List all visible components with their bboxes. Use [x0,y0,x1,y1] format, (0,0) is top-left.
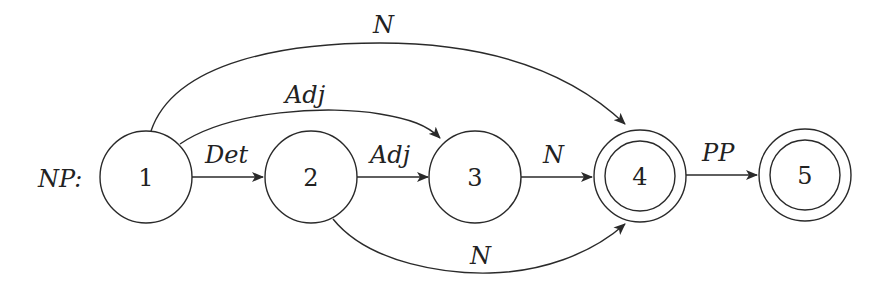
edge-label-det: Det [204,141,248,169]
state-3: 3 [429,131,521,223]
state-1-label: 1 [138,164,153,192]
edge-2-3: Adj [357,141,428,177]
edge-label-adj: Adj [368,141,411,169]
state-5-label: 5 [797,162,812,190]
edge-label-n-top: N [372,11,395,39]
state-1: 1 [100,131,192,223]
edge-label-n-bottom: N [469,242,492,270]
state-2: 2 [265,131,357,223]
state-3-label: 3 [467,164,482,192]
edge-2-4: N [333,219,625,273]
automaton-title-label: NP: [37,165,82,193]
edge-1-2: Det [192,141,263,177]
state-4-accepting: 4 [594,130,686,222]
state-2-label: 2 [303,164,318,192]
edge-1-4: N [151,11,625,131]
edge-label-adj-skip: Adj [283,81,326,109]
edge-4-5: PP [686,139,757,175]
edge-3-4: N [521,141,592,177]
fsa-diagram: NP: Det Adj N PP Adj N N 1 2 3 [0,0,887,289]
state-5-accepting: 5 [759,129,851,221]
edge-label-pp: PP [701,139,735,167]
state-4-label: 4 [632,163,647,191]
edge-label-n: N [542,141,565,169]
